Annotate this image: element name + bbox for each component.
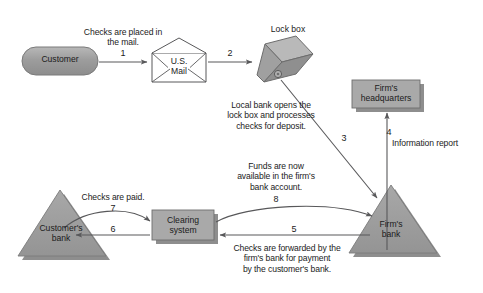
step-label-1: Checks are placed in the mail. — [70, 27, 176, 48]
step-label-3: Local bank opens the lock box and proces… — [215, 100, 327, 131]
diagram-canvas: Customer U.S. Mail Lock box Firm's headq… — [0, 0, 483, 293]
arrow-step-8 — [216, 206, 372, 222]
node-label-lock-box: Lock box — [248, 24, 328, 34]
node-customer[interactable] — [22, 47, 98, 75]
step-number-7: 7 — [105, 203, 121, 213]
step-label-5: Checks are forwarded by the firm's bank … — [216, 243, 358, 274]
step-number-8: 8 — [268, 194, 284, 204]
step-number-3: 3 — [336, 133, 352, 143]
step-number-2: 2 — [222, 48, 238, 58]
step-number-6: 6 — [105, 224, 121, 234]
node-lock-box[interactable] — [257, 36, 313, 82]
step-label-4: Information report — [392, 138, 482, 148]
step-label-8: Funds are now available in the firm's ba… — [218, 161, 334, 192]
step-number-5: 5 — [286, 224, 302, 234]
step-number-1: 1 — [115, 48, 131, 58]
step-number-4: 4 — [381, 127, 397, 137]
node-clearing-system[interactable] — [152, 210, 218, 244]
node-firms-bank[interactable] — [349, 185, 441, 257]
node-firms-headquarters[interactable] — [352, 80, 424, 112]
step-label-7: Checks are paid. — [62, 192, 164, 202]
